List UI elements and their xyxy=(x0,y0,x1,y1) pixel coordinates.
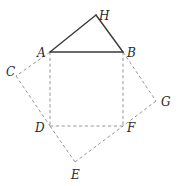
label-G: G xyxy=(161,95,171,109)
geometry-diagram: H A B C D F G E xyxy=(0,0,183,186)
dashed-lines xyxy=(16,52,156,162)
segment-EF xyxy=(75,126,123,162)
triangle-ABH xyxy=(50,15,123,52)
label-B: B xyxy=(126,46,136,60)
label-C: C xyxy=(6,65,15,79)
label-D: D xyxy=(34,121,45,135)
segment-AH xyxy=(50,15,96,52)
label-E: E xyxy=(70,168,80,182)
segment-CD xyxy=(16,76,50,126)
label-H: H xyxy=(98,9,110,23)
point-labels: H A B C D F G E xyxy=(6,9,171,182)
segment-DE xyxy=(50,126,75,162)
label-F: F xyxy=(126,121,136,135)
label-A: A xyxy=(36,46,46,60)
